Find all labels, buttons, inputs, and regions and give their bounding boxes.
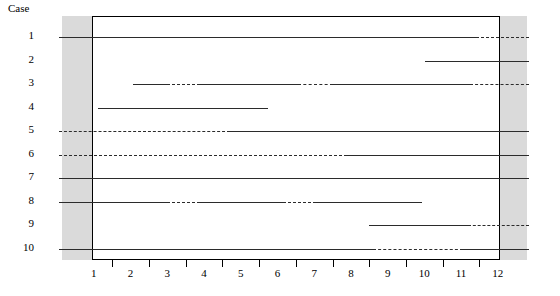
timeline-segment-case-3-1 xyxy=(167,84,201,85)
x-axis-tick-label-10: 10 xyxy=(409,266,439,280)
x-axis-tick-3 xyxy=(149,260,150,267)
timeline-segment-case-3-3 xyxy=(298,84,333,85)
timeline-segment-case-1-1 xyxy=(476,37,529,38)
case-label-3: 3 xyxy=(0,76,34,88)
timeline-segment-case-6-1 xyxy=(347,155,529,156)
shaded-band-left xyxy=(62,16,92,260)
timeline-segment-case-9-0 xyxy=(369,225,467,226)
plot-frame xyxy=(92,16,500,260)
timeline-segment-case-8-0 xyxy=(59,202,167,203)
case-label-8: 8 xyxy=(0,194,34,206)
case-label-6: 6 xyxy=(0,147,34,159)
x-axis-tick-label-9: 9 xyxy=(373,266,403,280)
x-axis-tick-9 xyxy=(369,260,370,267)
timeline-segment-case-6-0 xyxy=(59,155,347,156)
timeline-segment-case-8-2 xyxy=(200,202,283,203)
x-axis-tick-2 xyxy=(112,260,113,267)
timeline-segment-case-8-4 xyxy=(316,202,422,203)
timeline-segment-case-9-1 xyxy=(468,225,529,226)
x-axis-tick-label-12: 12 xyxy=(483,266,513,280)
x-axis-tick-label-8: 8 xyxy=(336,266,366,280)
case-label-9: 9 xyxy=(0,217,34,229)
case-label-7: 7 xyxy=(0,170,34,182)
case-label-4: 4 xyxy=(0,100,34,112)
timeline-segment-case-10-0 xyxy=(59,249,373,250)
x-axis-tick-6 xyxy=(259,260,260,267)
case-timeline-figure: Case 12345678910 123456789101112 xyxy=(0,0,560,296)
case-axis-title: Case xyxy=(8,2,29,14)
case-label-2: 2 xyxy=(0,53,34,65)
x-axis-tick-label-6: 6 xyxy=(262,266,292,280)
x-axis-tick-label-2: 2 xyxy=(116,266,146,280)
x-axis-tick-label-4: 4 xyxy=(189,266,219,280)
timeline-segment-case-1-0 xyxy=(59,37,475,38)
timeline-segment-case-3-2 xyxy=(200,84,297,85)
x-axis-tick-label-7: 7 xyxy=(299,266,329,280)
x-axis-tick-12 xyxy=(479,260,480,267)
x-axis-tick-label-11: 11 xyxy=(446,266,476,280)
case-label-10: 10 xyxy=(0,241,34,253)
timeline-segment-case-8-1 xyxy=(167,202,200,203)
x-axis-tick-7 xyxy=(296,260,297,267)
x-axis-tick-11 xyxy=(443,260,444,267)
x-axis-tick-10 xyxy=(406,260,407,267)
timeline-segment-case-10-2 xyxy=(463,249,529,250)
case-label-5: 5 xyxy=(0,123,34,135)
timeline-segment-case-7-0 xyxy=(59,178,529,179)
timeline-segment-case-4-0 xyxy=(98,108,269,109)
timeline-segment-case-5-0 xyxy=(59,131,229,132)
timeline-segment-case-8-3 xyxy=(283,202,316,203)
timeline-segment-case-3-5 xyxy=(470,84,529,85)
x-axis-tick-label-1: 1 xyxy=(79,266,109,280)
x-axis-tick-label-5: 5 xyxy=(226,266,256,280)
timeline-segment-case-2-0 xyxy=(425,61,529,62)
shaded-band-right xyxy=(500,16,527,260)
timeline-segment-case-10-1 xyxy=(373,249,463,250)
x-axis-tick-label-3: 3 xyxy=(152,266,182,280)
x-axis-tick-5 xyxy=(222,260,223,267)
timeline-segment-case-5-1 xyxy=(230,131,529,132)
timeline-segment-case-3-0 xyxy=(133,84,166,85)
case-label-1: 1 xyxy=(0,29,34,41)
timeline-segment-case-3-4 xyxy=(333,84,471,85)
x-axis-tick-4 xyxy=(186,260,187,267)
x-axis-tick-8 xyxy=(333,260,334,267)
